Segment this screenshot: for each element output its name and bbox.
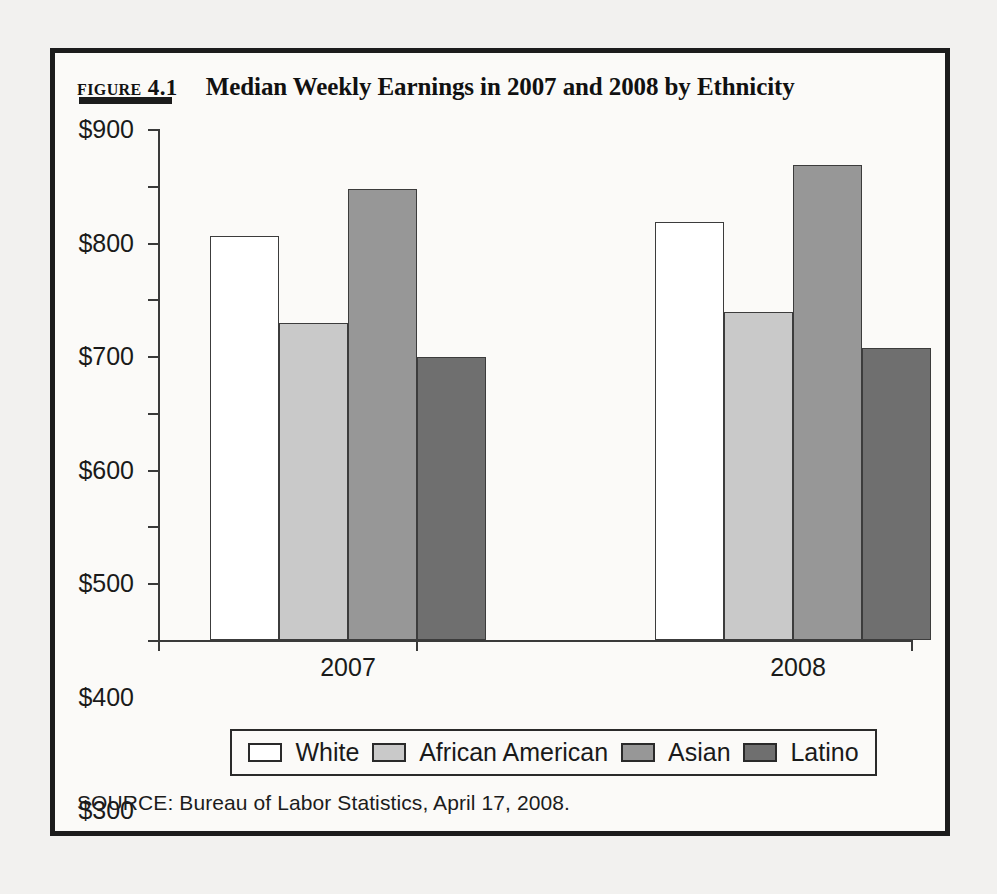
y-axis-tick-label: $600 [78, 455, 134, 484]
x-axis-tick [416, 640, 418, 651]
y-axis-tick: $0 [148, 640, 158, 642]
legend-item-asian[interactable]: Asian [621, 738, 731, 767]
y-axis-tick: $200 [148, 526, 158, 528]
y-axis-tick-label: $800 [78, 228, 134, 257]
legend-swatch-mid-gray [621, 743, 655, 762]
figure-frame: Figure 4.1 Median Weekly Earnings in 200… [50, 48, 950, 836]
y-axis-tick: $400 [148, 413, 158, 415]
y-axis-tick: $800 [148, 186, 158, 188]
legend-label: African American [419, 738, 608, 767]
bar-asian-2007 [348, 189, 417, 640]
y-axis-tick: $700 [148, 243, 158, 245]
legend-item-latino[interactable]: Latino [743, 738, 858, 767]
y-axis-line [158, 129, 160, 640]
y-axis-tick: $900 [148, 129, 158, 131]
legend-swatch-white [248, 743, 282, 762]
chart-plot: $900$800$700$600$500$400$300$200$100$0 2… [55, 53, 945, 831]
legend-item-african-american[interactable]: African American [372, 738, 608, 767]
y-axis-tick-label: $500 [78, 569, 134, 598]
x-axis-line [158, 640, 913, 642]
y-axis-tick-label: $400 [78, 682, 134, 711]
legend-item-white[interactable]: White [248, 738, 359, 767]
x-axis-tick [911, 640, 913, 651]
source-note: SOURCE: Bureau of Labor Statistics, Apri… [77, 791, 570, 815]
legend-swatch-light-gray [372, 743, 406, 762]
bar-asian-2008 [793, 165, 862, 640]
legend-label: Asian [668, 738, 731, 767]
x-axis-tick [158, 640, 160, 651]
y-axis-tick-label: $700 [78, 342, 134, 371]
legend-label: Latino [790, 738, 858, 767]
legend-swatch-dark-gray [743, 743, 777, 762]
chart-legend: WhiteAfrican AmericanAsianLatino [230, 729, 877, 776]
x-axis-group-label-2008: 2008 [770, 653, 826, 682]
legend-label: White [295, 738, 359, 767]
y-axis-tick: $100 [148, 583, 158, 585]
y-axis-tick-label: $900 [78, 115, 134, 144]
chart-canvas: $900$800$700$600$500$400$300$200$100$0 2… [158, 129, 913, 640]
bar-white-2007 [210, 236, 279, 640]
y-axis-tick: $500 [148, 356, 158, 358]
bar-white-2008 [655, 222, 724, 640]
x-axis-group-label-2007: 2007 [320, 653, 376, 682]
bar-latino-2007 [417, 357, 486, 640]
bar-african-american-2008 [724, 312, 793, 640]
bar-african-american-2007 [279, 323, 348, 640]
bar-latino-2008 [862, 348, 931, 640]
y-axis-tick: $600 [148, 299, 158, 301]
y-axis-tick: $300 [148, 470, 158, 472]
